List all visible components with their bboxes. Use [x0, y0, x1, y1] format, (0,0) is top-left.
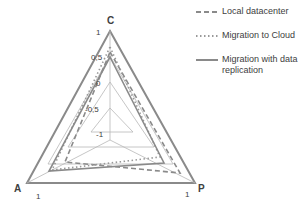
legend-item-migration-replication: Migration with data replication	[196, 54, 306, 76]
axis-label-c: C	[107, 15, 114, 26]
tick-0-5: 0,5	[91, 53, 103, 62]
tick-1: 1	[96, 28, 101, 37]
legend-item-migration-to-cloud: Migration to Cloud	[196, 30, 306, 41]
axis-label-a: A	[14, 183, 21, 194]
dashed-line-icon	[196, 8, 218, 16]
chart-legend: Local datacenter Migration to Cloud Migr…	[196, 6, 306, 89]
legend-label: Local datacenter	[222, 6, 289, 17]
legend-label: Migration to Cloud	[222, 30, 295, 41]
end-label-p: 1	[185, 190, 190, 199]
legend-item-local-datacenter: Local datacenter	[196, 6, 306, 17]
legend-label: Migration with data replication	[222, 54, 306, 76]
axis-label-p: P	[198, 183, 205, 194]
dotted-line-icon	[196, 32, 218, 40]
end-label-a: 1	[36, 192, 41, 201]
series-local-datacenter	[65, 52, 180, 173]
tick-0: 0	[96, 79, 101, 88]
tick-minus-0-5: -0,5	[85, 105, 99, 114]
tick-minus-1: -1	[96, 130, 104, 139]
solid-line-icon	[196, 56, 218, 64]
